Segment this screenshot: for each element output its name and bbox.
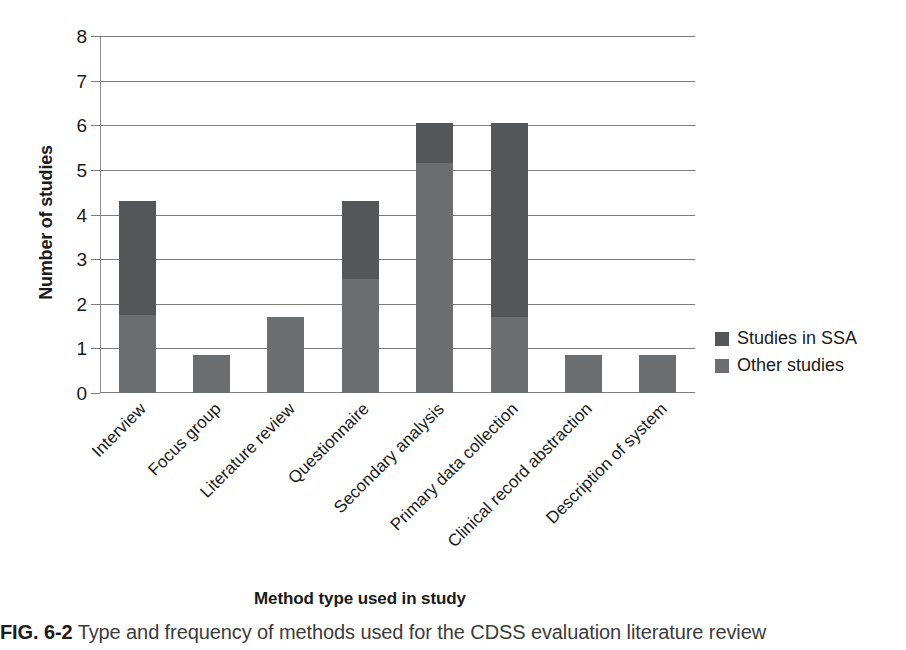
legend-swatch-icon — [715, 359, 729, 373]
bar-column[interactable] — [267, 317, 304, 393]
x-axis-title: Method type used in study — [0, 589, 720, 609]
bar-segment[interactable] — [119, 315, 156, 393]
bar-segment[interactable] — [416, 123, 453, 163]
x-tick-label: Clinical record abstraction — [445, 400, 595, 550]
y-tick-label: 6 — [76, 116, 87, 135]
bar-segment[interactable] — [342, 201, 379, 279]
y-tick-label: 3 — [76, 250, 87, 269]
y-tick-mark — [91, 259, 100, 260]
bar-column[interactable] — [193, 355, 230, 393]
legend-label: Studies in SSA — [737, 328, 857, 349]
plot-area: 012345678 — [100, 36, 695, 393]
legend-item[interactable]: Other studies — [715, 352, 900, 379]
y-tick-mark — [91, 36, 100, 37]
bar-column[interactable] — [565, 355, 602, 393]
legend-swatch-icon — [715, 332, 729, 346]
legend-label: Other studies — [737, 355, 844, 376]
y-tick-label: 7 — [76, 71, 87, 90]
chart-legend: Studies in SSAOther studies — [715, 325, 900, 379]
bar-column[interactable] — [639, 355, 676, 393]
y-tick-mark — [91, 348, 100, 349]
y-tick-label: 1 — [76, 339, 87, 358]
figure-number: FIG. 6-2 — [0, 621, 73, 643]
y-tick-label: 2 — [76, 294, 87, 313]
bar-series-group — [100, 36, 695, 393]
y-tick-label: 8 — [76, 27, 87, 46]
bar-segment[interactable] — [639, 355, 676, 393]
figure-container: Number of studies 012345678 InterviewFoc… — [0, 0, 906, 650]
bar-segment[interactable] — [267, 317, 304, 393]
y-tick-label: 4 — [76, 205, 87, 224]
figure-caption: FIG. 6-2 Type and frequency of methods u… — [0, 621, 906, 644]
x-tick-label: Interview — [89, 400, 149, 460]
y-tick-mark — [91, 170, 100, 171]
y-tick-mark — [91, 393, 100, 394]
figure-caption-text: Type and frequency of methods used for t… — [78, 621, 766, 643]
y-tick-label: 0 — [76, 384, 87, 403]
y-tick-label: 5 — [76, 160, 87, 179]
x-tick-label: Focus group — [145, 400, 224, 479]
y-axis-title: Number of studies — [36, 113, 57, 333]
x-axis-tick-labels: InterviewFocus groupLiterature reviewQue… — [100, 394, 695, 579]
bar-segment[interactable] — [119, 201, 156, 315]
y-tick-mark — [91, 81, 100, 82]
bar-segment[interactable] — [193, 355, 230, 393]
x-tick-label: Primary data collection — [387, 400, 521, 534]
y-tick-mark — [91, 215, 100, 216]
bar-column[interactable] — [416, 123, 453, 393]
legend-item[interactable]: Studies in SSA — [715, 325, 900, 352]
y-tick-mark — [91, 304, 100, 305]
bar-segment[interactable] — [491, 123, 528, 317]
bar-segment[interactable] — [416, 163, 453, 393]
bar-column[interactable] — [491, 123, 528, 393]
y-tick-mark — [91, 125, 100, 126]
bar-column[interactable] — [119, 201, 156, 393]
bar-segment[interactable] — [565, 355, 602, 393]
bar-column[interactable] — [342, 201, 379, 393]
bar-segment[interactable] — [342, 279, 379, 393]
bar-segment[interactable] — [491, 317, 528, 393]
